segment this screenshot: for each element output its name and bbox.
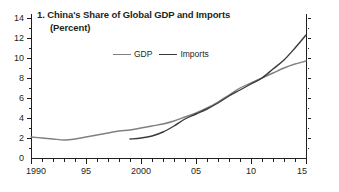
legend-line-swatch	[113, 54, 131, 55]
x-axis-tick-label: 15	[297, 166, 307, 176]
x-axis-ticks	[32, 159, 307, 164]
chart-screenshot: 1. China's Share of Global GDP and Impor…	[0, 0, 339, 192]
legend-entry-gdp[interactable]: GDP	[113, 49, 152, 59]
x-axis-tick-label: 2000	[131, 166, 151, 176]
chart-legend: GDPImports	[113, 49, 209, 59]
x-axis-tick-label: 95	[81, 166, 91, 176]
series-line-gdp	[31, 61, 306, 140]
legend-line-swatch	[159, 54, 177, 55]
legend-entry-imports[interactable]: Imports	[159, 49, 208, 59]
x-axis-tick-label: 05	[191, 166, 201, 176]
legend-label: Imports	[180, 49, 208, 59]
x-axis-tick-label: 1990	[26, 166, 46, 176]
plot-area	[0, 0, 339, 192]
axis-lines	[31, 14, 307, 159]
x-axis-tick-label: 10	[246, 166, 256, 176]
legend-label: GDP	[134, 49, 152, 59]
